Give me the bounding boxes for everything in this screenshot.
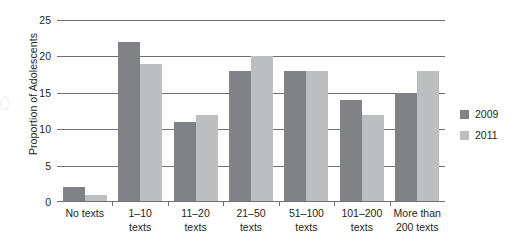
x-axis-label-line: texts <box>223 221 278 235</box>
bar-2011-1-10-texts <box>140 64 162 202</box>
bar-group <box>334 20 389 202</box>
bar-2011-more-than-200-texts <box>417 71 439 202</box>
bar-2009-1-10-texts <box>118 42 140 202</box>
bar-group <box>223 20 278 202</box>
legend-swatch-icon <box>460 110 469 119</box>
x-axis-label-6: More than200 texts <box>390 207 445 234</box>
y-axis-tick-label: 0 <box>45 197 51 208</box>
x-axis-label-4: 51–100texts <box>279 207 334 234</box>
bar-groups <box>57 20 445 202</box>
bar-2009-101-200-texts <box>340 100 362 202</box>
y-axis-title: Proportion of Adolescents <box>27 9 39 179</box>
bar-2009-51-100-texts <box>284 71 306 202</box>
bar-group <box>57 20 112 202</box>
x-axis-label-line: 51–100 <box>279 207 334 221</box>
x-axis-label-5: 101–200texts <box>334 207 389 234</box>
bar-group <box>279 20 334 202</box>
x-axis-tick <box>168 202 169 206</box>
x-axis-tick <box>223 202 224 206</box>
bar-group <box>390 20 445 202</box>
x-axis-label-line: texts <box>334 221 389 235</box>
x-axis-label-line: texts <box>168 221 223 235</box>
x-axis-tick <box>390 202 391 206</box>
y-axis-tick-label: 15 <box>39 88 51 99</box>
x-axis-tick <box>334 202 335 206</box>
x-axis-label-line: 21–50 <box>223 207 278 221</box>
y-axis-tick-label: 25 <box>39 15 51 26</box>
x-axis-label-line: More than <box>390 207 445 221</box>
bar-2011-21-50-texts <box>251 56 273 202</box>
y-axis-tick-label: 20 <box>39 51 51 62</box>
x-axis-tick <box>279 202 280 206</box>
x-axis-labels: No texts1–10texts11–20texts21–50texts51–… <box>57 207 445 234</box>
x-axis-label-line: 101–200 <box>334 207 389 221</box>
legend-item-2009: 2009 <box>460 108 498 120</box>
x-axis-label-line: No texts <box>57 207 112 221</box>
legend-label: 2009 <box>475 108 498 120</box>
plot-area: 0510152025 <box>57 20 445 202</box>
bar-2011-101-200-texts <box>362 115 384 202</box>
bar-2009-more-than-200-texts <box>395 93 417 202</box>
bar-2009-11-20-texts <box>174 122 196 202</box>
legend-swatch-icon <box>460 131 469 140</box>
legend-label: 2011 <box>475 129 498 141</box>
page-edge-artifact <box>0 96 9 111</box>
bar-2011-11-20-texts <box>196 115 218 202</box>
legend: 20092011 <box>460 108 498 150</box>
x-axis-line <box>57 201 445 202</box>
x-axis-label-line: texts <box>112 221 167 235</box>
bar-2011-51-100-texts <box>306 71 328 202</box>
x-axis-tick <box>112 202 113 206</box>
x-axis-label-line: 1–10 <box>112 207 167 221</box>
x-axis-label-3: 21–50texts <box>223 207 278 234</box>
y-axis-tick-label: 5 <box>45 160 51 171</box>
x-axis-label-0: No texts <box>57 207 112 234</box>
x-axis-label-line: 11–20 <box>168 207 223 221</box>
bar-chart: Proportion of Adolescents 0510152025 No … <box>0 0 516 244</box>
bar-2009-21-50-texts <box>229 71 251 202</box>
x-axis-label-1: 1–10texts <box>112 207 167 234</box>
x-axis-label-2: 11–20texts <box>168 207 223 234</box>
bar-group <box>168 20 223 202</box>
x-axis-label-line: 200 texts <box>390 221 445 235</box>
legend-item-2011: 2011 <box>460 129 498 141</box>
y-axis-tick-label: 10 <box>39 124 51 135</box>
x-axis-label-line: texts <box>279 221 334 235</box>
bar-group <box>112 20 167 202</box>
